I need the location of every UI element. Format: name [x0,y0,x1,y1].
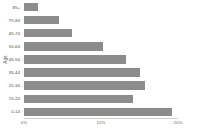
bar-65-74 [24,29,72,37]
y-axis-tick-label: 45-54 [9,57,20,62]
y-axis-tick-25-34: 25-34 [0,79,22,92]
bar-row: 65-74 [0,27,199,40]
y-axis-tick-label: 65-74 [9,31,20,36]
y-axis-tick-35-44: 35-44 [0,66,22,79]
y-axis-tick-label: 15-24 [9,96,20,101]
y-axis-tick-75-84: 75-84 [0,14,22,27]
x-axis-tick-label: 20% [174,120,183,125]
y-axis-tick-label: 55-64 [9,44,20,49]
bar-row: 55-64 [0,40,199,53]
x-axis-tick-label: 0% [21,120,27,125]
bar-15-24 [24,95,133,103]
plot-area: 85+75-8465-7455-6445-5435-4425-3415-240-… [0,0,199,118]
bar-row: 0-14 [0,105,199,118]
bar-75-84 [24,16,59,24]
y-axis-tick-55-64: 55-64 [0,40,22,53]
bar-row: 75-84 [0,14,199,27]
bar-row: 45-54 [0,53,199,66]
y-axis-tick-65-74: 65-74 [0,27,22,40]
bar-row: 25-34 [0,79,199,92]
bar-chart: Age 85+75-8465-7455-6445-5435-4425-3415-… [0,0,199,131]
bar-row: 15-24 [0,92,199,105]
y-axis-tick-label: 35-44 [9,70,20,75]
bar-row: 35-44 [0,66,199,79]
y-axis-tick-label: 0-14 [11,109,20,114]
x-axis-tick-label: 10% [97,120,106,125]
bar-45-54 [24,55,126,63]
x-axis-line [24,118,178,119]
y-axis-tick-label: 75-84 [9,18,20,23]
bar-85plus [24,3,38,11]
y-axis-tick-label: 25-34 [9,83,20,88]
bar-55-64 [24,42,103,50]
bar-0-14 [24,108,172,116]
y-axis-tick-15-24: 15-24 [0,92,22,105]
bar-row: 85+ [0,1,199,14]
y-axis-tick-45-54: 45-54 [0,53,22,66]
y-axis-tick-0-14: 0-14 [0,105,22,118]
bar-25-34 [24,81,145,89]
y-axis-tick-85plus: 85+ [0,1,22,14]
bar-35-44 [24,68,140,76]
y-axis-tick-label: 85+ [13,5,20,10]
